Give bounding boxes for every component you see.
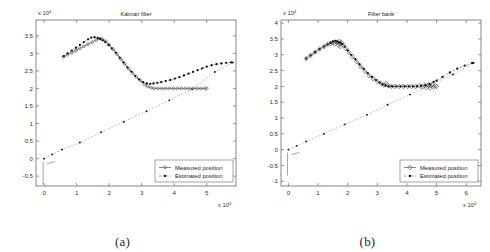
estimated-position-marker <box>358 63 360 65</box>
reference-ramp-marker <box>387 104 389 106</box>
plot-title: Kalman filter <box>120 11 151 17</box>
reference-ramp-marker <box>366 114 368 116</box>
y-tick-label: 1 <box>30 120 34 127</box>
estimated-position-marker <box>210 64 212 66</box>
x-tick-label: 4 <box>405 189 409 196</box>
estimated-position-marker <box>111 47 113 49</box>
x-tick-label: 3 <box>140 189 144 196</box>
estimated-position-marker <box>408 85 410 87</box>
estimated-position-marker <box>118 56 120 58</box>
legend-measured-label: Measured position <box>420 165 467 171</box>
subfigure-a: Kalman filter012345-0.500.511.522.533.5x… <box>0 0 245 252</box>
estimated-position-marker <box>165 80 167 82</box>
y-tick-label: 2 <box>30 85 34 92</box>
y-axis-exponent-sup: 4 <box>294 9 297 14</box>
estimated-position-marker <box>350 54 352 56</box>
estimated-position-marker <box>66 52 68 54</box>
estimated-position-marker <box>115 51 117 53</box>
estimated-position-marker <box>416 85 418 87</box>
x-axis-exponent-label: x 104 <box>463 201 477 208</box>
y-tick-label: 2.5 <box>24 67 33 74</box>
legend-estimated-marker <box>409 175 411 177</box>
x-tick-label: 4 <box>172 189 176 196</box>
estimated-position-marker <box>428 83 430 85</box>
y-tick-label: 0 <box>275 146 279 153</box>
reference-ramp-line <box>288 63 473 150</box>
y-axis-exponent-label: x 104 <box>38 9 52 16</box>
plot-svg-a: Kalman filter012345-0.500.511.522.533.5x… <box>0 0 245 222</box>
plot-title: Filter bank <box>368 11 394 17</box>
estimated-position-marker <box>169 79 171 81</box>
estimated-position-marker <box>126 66 128 68</box>
legend-measured-label: Measured position <box>175 165 222 171</box>
estimated-position-marker <box>225 62 227 64</box>
y-tick-label: 4 <box>275 19 279 26</box>
estimated-position-marker <box>62 55 64 57</box>
legend-estimated-label: Estimated position <box>420 173 467 179</box>
reference-ramp-line <box>44 62 233 158</box>
estimated-position-marker <box>329 42 331 44</box>
estimated-position-marker <box>220 62 222 64</box>
estimated-position-marker <box>142 81 144 83</box>
y-tick-label: 1.5 <box>269 98 278 105</box>
reference-ramp-marker <box>214 71 216 73</box>
estimated-position-marker <box>87 38 89 40</box>
y-tick-label: 1.5 <box>24 102 33 109</box>
y-tick-label: 0.5 <box>24 137 33 144</box>
estimated-position-marker <box>152 82 154 84</box>
legend-estimated-marker <box>164 175 166 177</box>
reference-ramp-marker <box>100 131 102 133</box>
reference-ramp-marker <box>305 140 307 142</box>
estimated-position-marker <box>384 85 386 87</box>
estimated-position-marker <box>178 76 180 78</box>
y-tick-label: 3.5 <box>24 32 33 39</box>
x-tick-label: 6 <box>464 189 468 196</box>
estimated-position-marker <box>332 40 334 42</box>
estimated-position-marker <box>104 41 106 43</box>
estimated-position-marker <box>323 45 325 47</box>
legend-estimated-label: Estimated position <box>175 173 222 179</box>
reference-ramp-marker <box>79 142 81 144</box>
reference-ramp-marker <box>296 145 298 147</box>
reference-ramp-marker <box>51 153 53 155</box>
estimated-position-marker <box>363 68 365 70</box>
estimated-position-marker <box>441 76 443 78</box>
estimated-position-marker <box>420 85 422 87</box>
estimated-position-marker <box>347 49 349 51</box>
estimated-position-marker <box>183 74 185 76</box>
estimated-position-marker <box>305 57 307 59</box>
estimated-position-marker <box>156 82 158 84</box>
estimated-position-marker <box>71 49 73 51</box>
estimated-position-marker <box>391 85 393 87</box>
x-tick-label: 5 <box>205 189 209 196</box>
reference-ramp-marker <box>452 73 454 75</box>
y-tick-label: -1 <box>272 177 278 184</box>
subfigure-caption-b: (b) <box>245 234 490 250</box>
x-tick-label: 0 <box>287 189 291 196</box>
estimated-position-marker <box>99 38 101 40</box>
plot-area-b: Filter bank0123456-1-0.500.511.522.533.5… <box>245 0 490 222</box>
estimated-position-marker <box>160 81 162 83</box>
y-tick-label: 2.5 <box>269 67 278 74</box>
estimated-position-marker <box>403 85 405 87</box>
reference-ramp-marker <box>323 133 325 135</box>
estimated-position-line <box>306 41 472 87</box>
x-tick-label: 1 <box>316 189 320 196</box>
y-tick-label: 3 <box>30 50 34 57</box>
estimated-position-marker <box>149 83 151 85</box>
estimated-position-marker <box>146 82 148 84</box>
reference-ramp-marker <box>287 149 289 151</box>
y-tick-label: -0.5 <box>22 172 33 179</box>
x-tick-label: 3 <box>376 189 380 196</box>
estimated-position-marker <box>174 77 176 79</box>
estimated-position-marker <box>354 58 356 60</box>
estimated-position-marker <box>134 75 136 77</box>
estimated-position-marker <box>341 43 343 45</box>
estimated-position-marker <box>138 78 140 80</box>
legend[interactable]: Measured positionEstimated position <box>400 160 478 182</box>
x-tick-label: 2 <box>107 189 111 196</box>
estimated-position-marker <box>130 70 132 72</box>
subfigure-b: Filter bank0123456-1-0.500.511.522.533.5… <box>245 0 490 252</box>
origin-annotation <box>43 162 55 185</box>
legend[interactable]: Measured positionEstimated position <box>155 160 233 182</box>
